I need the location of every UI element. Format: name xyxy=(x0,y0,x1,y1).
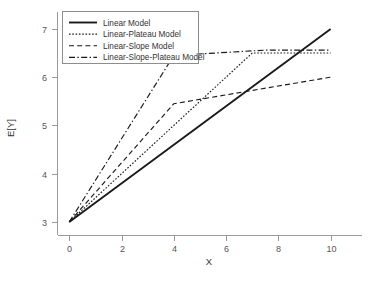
line-chart: 34567 0246810 X E[Y] Linear ModelLinear-… xyxy=(0,0,380,286)
y-tick-label: 5 xyxy=(42,121,47,131)
legend-label-2: Linear-Plateau Model xyxy=(103,30,181,39)
x-tick-label: 2 xyxy=(120,244,125,254)
series-line-4 xyxy=(69,50,330,222)
y-tick-label: 6 xyxy=(42,73,47,83)
x-tick-label: 8 xyxy=(276,244,281,254)
y-tick-label: 3 xyxy=(42,218,47,228)
x-tick-label: 6 xyxy=(224,244,229,254)
y-axis-ticks: 34567 xyxy=(42,25,58,228)
series-line-2 xyxy=(69,53,330,222)
legend-label-1: Linear Model xyxy=(103,19,151,28)
y-tick-label: 4 xyxy=(42,170,47,180)
x-axis-title: X xyxy=(206,256,213,267)
y-tick-label: 7 xyxy=(42,25,47,35)
y-axis-title: E[Y] xyxy=(5,119,16,137)
x-tick-label: 0 xyxy=(67,244,72,254)
legend-label-3: Linear-Slope Model xyxy=(103,42,174,51)
x-tick-label: 10 xyxy=(326,244,336,254)
chart-legend: Linear ModelLinear-Plateau ModelLinear-S… xyxy=(63,12,205,64)
x-axis-ticks: 0246810 xyxy=(67,236,337,255)
legend-label-4: Linear-Slope-Plateau Model xyxy=(103,53,205,62)
x-tick-label: 4 xyxy=(172,244,177,254)
chart-figure: 34567 0246810 X E[Y] Linear ModelLinear-… xyxy=(0,0,380,286)
series-line-3 xyxy=(69,77,330,222)
